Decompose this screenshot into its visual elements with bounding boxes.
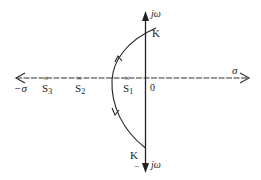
pole-subscript: 2 [81,87,85,96]
pole-s3: × S3 [42,74,52,96]
pole-s1: × S1 [123,74,133,96]
svg-text:S2: S2 [75,82,85,96]
sigma-label: σ [232,64,238,76]
real-axis [16,73,249,83]
jw-neg-label: jω [149,159,161,170]
neg-sigma-label: −σ [14,82,27,94]
pole-subscript: 3 [48,87,52,96]
k-lower-label: K [130,149,138,161]
down-arrow-icon [142,163,149,173]
root-locus-diagram: × S3 × S2 × S1 −σ σ 0 jω K K − jω [0,0,261,180]
pole-s2: × S2 [75,74,85,96]
pole-subscript: 1 [129,87,133,96]
jw-pos-label: jω [149,8,161,19]
origin-label: 0 [150,82,155,93]
svg-text:S1: S1 [123,82,133,96]
svg-text:S3: S3 [42,82,52,96]
up-arrow-icon [142,11,149,21]
jw-neg-sign: − [134,161,139,171]
k-upper-label: K [152,27,160,39]
imaginary-axis [142,11,149,173]
